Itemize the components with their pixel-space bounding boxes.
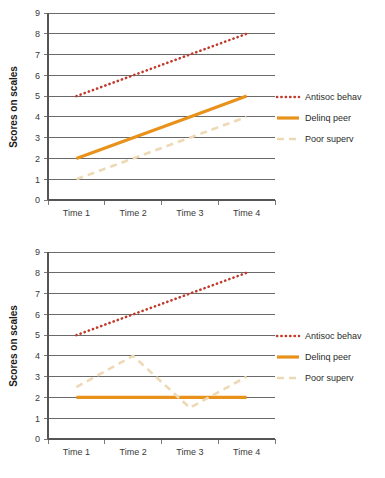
legend-label-antisoc: Antisoc behav	[305, 92, 362, 102]
chart-1-gridlines	[48, 13, 275, 179]
chart-1-ylabel: Scores on scales	[8, 66, 19, 148]
series-line-antisoc-behav	[76, 34, 246, 96]
chart-panel-bottom: 0123456789 Time 1Time 2Time 3Time 4 Anti…	[0, 239, 385, 478]
ytick-label: 3	[35, 133, 40, 143]
ytick-label: 0	[35, 434, 40, 444]
ytick-label: 9	[35, 8, 40, 18]
chart-1-svg: 0123456789 Time 1Time 2Time 3Time 4 Anti…	[0, 0, 385, 239]
chart-2-ylabel: Scores on scales	[8, 305, 19, 387]
chart-1-legend: Antisoc behavDelinq peerPoor superv	[277, 92, 362, 144]
ytick-label: 6	[35, 71, 40, 81]
legend-label-antisoc: Antisoc behav	[305, 331, 362, 341]
xtick-label-3: Time 3	[176, 447, 203, 457]
series-line-poor-superv	[76, 356, 246, 408]
legend-label-delinq: Delinq peer	[305, 352, 351, 362]
ytick-label: 6	[35, 310, 40, 320]
chart-2-yticklabels: 0123456789	[35, 247, 48, 444]
ytick-label: 7	[35, 289, 40, 299]
ytick-label: 4	[35, 112, 40, 122]
ytick-label: 0	[35, 195, 40, 205]
chart-1-yticklabels: 0123456789	[35, 8, 48, 205]
series-line-antisoc-behav	[76, 273, 246, 335]
legend-label-poor: Poor superv	[305, 373, 354, 383]
ytick-label: 3	[35, 372, 40, 382]
ytick-label: 8	[35, 29, 40, 39]
legend-label-poor: Poor superv	[305, 134, 354, 144]
ytick-label: 8	[35, 268, 40, 278]
chart-1-series	[76, 34, 246, 179]
chart-1-xticks: Time 1Time 2Time 3Time 4	[48, 200, 275, 218]
chart-2-series	[76, 273, 246, 408]
chart-2-svg: 0123456789 Time 1Time 2Time 3Time 4 Anti…	[0, 239, 385, 478]
xtick-label-1: Time 1	[63, 208, 90, 218]
xtick-label-2: Time 2	[120, 208, 147, 218]
chart-2-legend: Antisoc behavDelinq peerPoor superv	[277, 331, 362, 383]
chart-1-axes	[48, 13, 275, 200]
xtick-label-4: Time 4	[233, 208, 260, 218]
ytick-label: 1	[35, 414, 40, 424]
ytick-label: 2	[35, 154, 40, 164]
chart-2-axes	[48, 252, 275, 439]
xtick-label-3: Time 3	[176, 208, 203, 218]
legend-label-delinq: Delinq peer	[305, 113, 351, 123]
chart-2-xticks: Time 1Time 2Time 3Time 4	[48, 439, 275, 457]
ytick-label: 9	[35, 247, 40, 257]
chart-2-gridlines	[48, 252, 275, 418]
ytick-label: 5	[35, 91, 40, 101]
xtick-label-4: Time 4	[233, 447, 260, 457]
ytick-label: 7	[35, 50, 40, 60]
chart-panel-top: 0123456789 Time 1Time 2Time 3Time 4 Anti…	[0, 0, 385, 239]
xtick-label-2: Time 2	[120, 447, 147, 457]
xtick-label-1: Time 1	[63, 447, 90, 457]
ytick-label: 4	[35, 351, 40, 361]
ytick-label: 1	[35, 175, 40, 185]
ytick-label: 2	[35, 393, 40, 403]
ytick-label: 5	[35, 330, 40, 340]
